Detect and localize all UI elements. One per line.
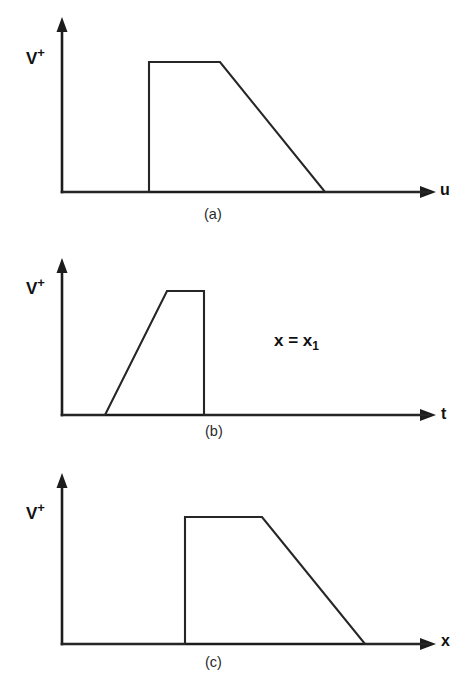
figure-three-panel-waveforms: V+ u (a) V+ t x = x1 (b) (0, 0, 466, 677)
waveform-trace-b (62, 291, 430, 415)
panel-caption-a: (a) (204, 207, 222, 222)
panel-b-plot (0, 230, 466, 452)
annotation-x-equals-x1: x = x1 (274, 332, 319, 349)
y-axis-label-c: V+ (26, 505, 45, 522)
y-axis-arrow-icon-a (57, 17, 68, 32)
x-axis-label-c: x (441, 633, 450, 649)
y-axis-arrow-icon-b (57, 258, 68, 273)
panel-c-plot (0, 452, 466, 677)
y-axis-label-a: V+ (26, 50, 45, 67)
panel-caption-b: (b) (205, 424, 223, 439)
x-axis-label-b: t (441, 406, 446, 422)
panel-b: V+ t x = x1 (b) (0, 230, 466, 452)
y-axis-label-b: V+ (26, 280, 45, 297)
panel-a: V+ u (a) (0, 0, 466, 230)
x-axis-label-a: u (440, 182, 450, 198)
panel-caption-c: (c) (205, 655, 222, 670)
panel-a-plot (0, 0, 466, 230)
waveform-trace-c (62, 517, 430, 644)
waveform-trace-a (62, 62, 430, 192)
y-axis-arrow-icon-c (57, 473, 68, 488)
panel-c: V+ x (c) (0, 452, 466, 677)
